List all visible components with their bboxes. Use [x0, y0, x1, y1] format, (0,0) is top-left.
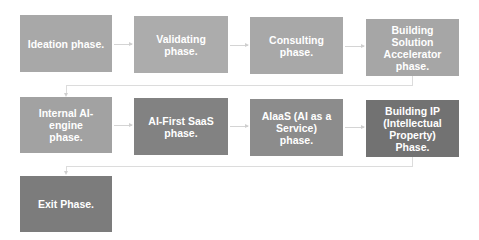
connector-line — [412, 76, 413, 85]
phase-box-consulting: Consulting phase. — [250, 17, 343, 74]
phase-box-aiaas: AIaaS (AI as a Service) phase. — [250, 99, 343, 156]
phase-box-validating: Validating phase. — [134, 16, 228, 73]
phase-box-ai-first-saas: AI-First SaaS phase. — [134, 98, 228, 155]
phase-box-internal-ai-engine: Internal AI-engine phase. — [20, 97, 112, 153]
arrow-connector — [230, 45, 248, 46]
phase-label: Building Solution Accelerator phase. — [380, 24, 445, 72]
phase-box-building-ip: Building IP (Intellectual Property) Phas… — [366, 100, 459, 157]
arrow-connector — [114, 125, 132, 126]
connector-line — [412, 157, 413, 166]
phase-label: Internal AI-engine phase. — [34, 107, 98, 143]
phase-label: Validating phase. — [152, 33, 210, 57]
arrow-connector — [230, 126, 248, 127]
phase-label: AI-First SaaS phase. — [148, 115, 214, 139]
phase-label: Exit Phase. — [38, 198, 94, 210]
arrow-head — [64, 171, 68, 175]
connector-line — [66, 85, 67, 93]
arrow-connector — [345, 46, 364, 47]
connector-line — [66, 85, 413, 86]
arrow-connector — [114, 44, 132, 45]
phase-label: AIaaS (AI as a Service) phase. — [258, 110, 335, 146]
phase-box-ideation: Ideation phase. — [20, 15, 112, 72]
phase-box-exit: Exit Phase. — [20, 176, 112, 232]
connector-line — [66, 166, 413, 167]
arrow-connector — [345, 127, 364, 128]
phase-label: Consulting phase. — [268, 34, 325, 58]
phase-label: Building IP (Intellectual Property) Phas… — [376, 105, 449, 153]
phase-label: Ideation phase. — [28, 38, 104, 50]
phase-box-building-solution-accelerator: Building Solution Accelerator phase. — [366, 19, 459, 76]
